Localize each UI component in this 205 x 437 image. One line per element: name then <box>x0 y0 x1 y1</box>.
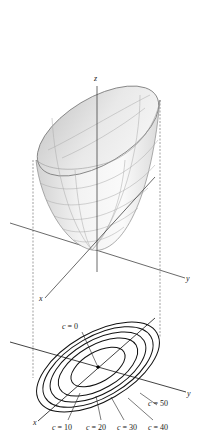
origin-point <box>96 365 100 369</box>
y-axis-label-contour: y <box>186 389 191 398</box>
level-label-10: c = 10 <box>52 423 72 432</box>
level-label-50: c = 50 <box>148 399 168 408</box>
z-axis-label: z <box>93 74 98 83</box>
contour-plot: c = 0 c = 50 c = 10 c = 20 c = 30 c = 40… <box>10 304 191 432</box>
level-label-30: c = 30 <box>117 423 137 432</box>
level-label-20: c = 20 <box>86 423 106 432</box>
level-label-40: c = 40 <box>148 423 168 432</box>
x-axis-label-3d: x <box>38 294 43 303</box>
x-axis-label-contour: x <box>32 418 37 427</box>
paraboloid-surface <box>23 68 174 251</box>
paraboloid-diagram: z x y c = 0 c = 50 c = 10 c = 20 c = 30 <box>0 0 205 437</box>
level-label-0: c = 0 <box>62 322 78 331</box>
y-axis-label-3d: y <box>185 274 190 283</box>
leader-lines <box>68 332 157 420</box>
